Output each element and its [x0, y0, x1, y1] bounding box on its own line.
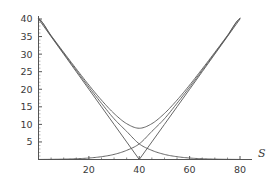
y-tick-label: 25: [20, 66, 32, 77]
x-axis-label: S: [258, 147, 266, 160]
y-tick-label: 10: [20, 119, 32, 130]
y-tick-label: 30: [20, 49, 32, 60]
y-tick-label: 15: [20, 101, 32, 112]
y-tick-label: 5: [26, 136, 32, 147]
y-tick-label: 40: [20, 13, 32, 24]
y-tick-label: 20: [20, 84, 32, 95]
straddle-option-value-plot: 20406080 510152025303540 S: [0, 0, 278, 184]
y-tick-label: 35: [20, 31, 32, 42]
x-tick-label: 60: [184, 164, 196, 175]
x-tick-label: 20: [83, 164, 95, 175]
x-tick-label: 80: [234, 164, 246, 175]
x-tick-label: 40: [133, 164, 145, 175]
chart-container: 20406080 510152025303540 S: [0, 0, 278, 184]
